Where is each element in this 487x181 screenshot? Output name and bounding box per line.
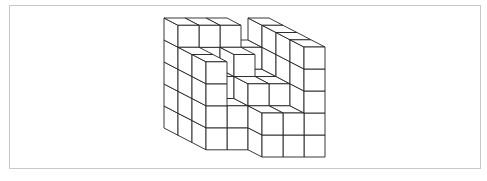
- cube-face: [227, 128, 248, 150]
- cube-face: [262, 113, 283, 135]
- cube-face: [304, 69, 325, 91]
- cube-face: [304, 91, 325, 113]
- cube-face: [248, 84, 269, 106]
- cube-stack-diagram: [0, 0, 487, 181]
- cube-face: [206, 84, 227, 106]
- cube-face: [199, 25, 220, 47]
- cube-face: [234, 55, 255, 77]
- cube-face: [220, 25, 241, 47]
- cube-face: [283, 135, 304, 157]
- cube-face: [178, 25, 199, 47]
- cube-face: [227, 106, 248, 128]
- cube-face: [206, 106, 227, 128]
- cube-face: [206, 128, 227, 150]
- cube-face: [304, 113, 325, 135]
- cube-face: [283, 113, 304, 135]
- cube-face: [262, 135, 283, 157]
- cube-face: [304, 135, 325, 157]
- cube-face: [269, 84, 290, 106]
- cube-face: [206, 62, 227, 84]
- cube-face: [304, 47, 325, 69]
